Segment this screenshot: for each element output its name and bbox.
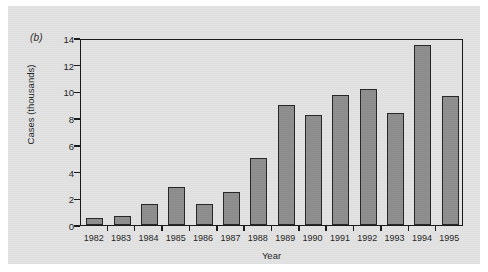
x-axis-tick <box>353 226 355 231</box>
x-axis-tick-label: 1986 <box>193 233 213 243</box>
bar <box>141 204 158 225</box>
x-axis-tick-label: 1993 <box>385 233 405 243</box>
bar <box>250 158 267 225</box>
bar <box>387 113 404 225</box>
y-axis-tick-label: 4 <box>40 167 74 178</box>
bar <box>223 192 240 225</box>
figure-panel: (b) Cases (thousands) 02468101214 198219… <box>8 6 480 264</box>
y-axis-tick-label: 0 <box>40 221 74 232</box>
x-axis-tick-label: 1995 <box>439 233 459 243</box>
x-axis-tick-label: 1983 <box>111 233 131 243</box>
x-axis-tick <box>161 226 163 231</box>
x-axis-tick <box>243 226 245 231</box>
y-axis-tick-label: 10 <box>40 87 74 98</box>
bar <box>196 204 213 225</box>
x-axis-tick-label: 1992 <box>357 233 377 243</box>
x-axis-tick <box>134 226 136 231</box>
x-axis-tick-label: 1991 <box>330 233 350 243</box>
x-axis-tick-label: 1990 <box>303 233 323 243</box>
bar <box>86 218 103 225</box>
x-axis-tick-label: 1994 <box>412 233 432 243</box>
bar <box>360 89 377 225</box>
y-axis-tick-label: 2 <box>40 194 74 205</box>
plot-frame <box>80 39 463 226</box>
bar <box>332 95 349 225</box>
x-axis-tick <box>107 226 109 231</box>
x-axis-tick-label: 1987 <box>220 233 240 243</box>
x-axis-tick <box>435 226 437 231</box>
figure-page: (b) Cases (thousands) 02468101214 198219… <box>0 0 488 272</box>
x-axis-tick <box>325 226 327 231</box>
x-axis-tick <box>271 226 273 231</box>
y-axis-tick-label: 12 <box>40 60 74 71</box>
x-axis-tick <box>298 226 300 231</box>
x-axis-tick-label: 1985 <box>166 233 186 243</box>
plot-area <box>81 40 462 225</box>
bar <box>168 187 185 225</box>
bar <box>414 45 431 225</box>
x-axis-tick-label: 1984 <box>138 233 158 243</box>
x-axis-tick-label: 1988 <box>248 233 268 243</box>
y-axis-tick-label: 14 <box>40 34 74 45</box>
y-axis-tick-label: 6 <box>40 140 74 151</box>
y-axis-tick-label: 8 <box>40 114 74 125</box>
x-axis-title: Year <box>80 250 463 261</box>
bar <box>305 115 322 225</box>
y-axis-title: Cases (thousands) <box>25 35 36 175</box>
x-axis-tick-label: 1982 <box>84 233 104 243</box>
x-axis-tick <box>380 226 382 231</box>
bar <box>442 96 459 225</box>
x-axis-tick-label: 1989 <box>275 233 295 243</box>
x-axis-tick <box>216 226 218 231</box>
x-axis-tick <box>189 226 191 231</box>
x-axis-tick <box>408 226 410 231</box>
bar <box>114 216 131 225</box>
bar <box>278 105 295 225</box>
